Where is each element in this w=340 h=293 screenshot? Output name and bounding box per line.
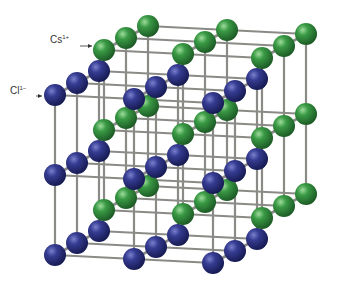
lattice-rod — [126, 38, 205, 42]
lattice-rod — [99, 71, 178, 75]
lattice-rod — [99, 151, 178, 155]
cs-ion-sphere — [194, 31, 216, 53]
lattice-rod — [55, 175, 134, 179]
lattice-rod — [77, 243, 156, 247]
cs-ion-sphere — [251, 207, 273, 229]
lattice-rod — [178, 235, 257, 239]
cl-ion-sphere — [44, 164, 66, 186]
cl-ion-sphere — [167, 144, 189, 166]
lattice-rod — [156, 247, 235, 251]
cl-ion-sphere — [44, 244, 66, 266]
lattice-rod — [77, 83, 156, 87]
lattice-rod — [99, 231, 178, 235]
cl-ion-sphere — [145, 76, 167, 98]
cscl-lattice-diagram: Cs1+ Cl1− — [0, 0, 340, 293]
cl-ion-sphere — [123, 248, 145, 270]
lattice-rod — [156, 87, 235, 91]
cl-ion-sphere — [66, 72, 88, 94]
cs-ion-label: Cs1+ — [50, 35, 69, 45]
lattice-rod — [126, 198, 205, 202]
cs-ion-sphere — [93, 119, 115, 141]
cs-symbol: Cs — [50, 34, 62, 45]
lattice-rod — [104, 130, 183, 134]
cl-ion-sphere — [145, 156, 167, 178]
cl-ion-sphere — [66, 232, 88, 254]
lattice-rod — [126, 118, 205, 122]
cl-ion-sphere — [88, 220, 110, 242]
lattice-rod — [134, 259, 213, 263]
lattice-rod — [205, 202, 284, 206]
cl-ion-sphere — [246, 68, 268, 90]
cs-ion-sphere — [273, 35, 295, 57]
cl-ion-sphere — [202, 252, 224, 274]
cs-ion-sphere — [115, 187, 137, 209]
cs-ion-sphere — [251, 127, 273, 149]
cl-ion-sphere — [224, 80, 246, 102]
cs-ion-sphere — [295, 103, 317, 125]
cl-ion-sphere — [167, 64, 189, 86]
lattice-rod — [55, 95, 134, 99]
cs-ion-sphere — [194, 111, 216, 133]
cs-ion-sphere — [137, 15, 159, 37]
cl-ion-sphere — [66, 152, 88, 174]
cs-charge: 1+ — [62, 34, 69, 40]
cs-arrowhead-icon — [88, 44, 92, 48]
lattice-rod — [55, 255, 134, 259]
cs-ion-sphere — [273, 115, 295, 137]
cs-ion-sphere — [273, 195, 295, 217]
cl-charge: 1− — [19, 85, 26, 91]
cs-ion-sphere — [172, 123, 194, 145]
cs-ion-sphere — [172, 43, 194, 65]
cs-ion-sphere — [295, 23, 317, 45]
cl-ion-sphere — [202, 172, 224, 194]
lattice-rod — [227, 110, 306, 114]
cl-ion-sphere — [123, 168, 145, 190]
lattice-rod — [183, 214, 262, 218]
cs-ion-sphere — [115, 27, 137, 49]
cl-ion-sphere — [224, 240, 246, 262]
cl-arrowhead-icon — [38, 94, 42, 98]
lattice-rod — [205, 122, 284, 126]
lattice-rod — [183, 134, 262, 138]
cs-ion-sphere — [194, 191, 216, 213]
lattice-rod — [156, 167, 235, 171]
cl-ion-sphere — [202, 92, 224, 114]
cl-ion-label: Cl1− — [10, 86, 26, 96]
lattice-rod — [178, 155, 257, 159]
cl-ion-sphere — [145, 236, 167, 258]
lattice-rod — [183, 54, 262, 58]
cs-ion-sphere — [93, 39, 115, 61]
cs-ion-sphere — [115, 107, 137, 129]
cs-ion-sphere — [172, 203, 194, 225]
lattice-rod — [227, 190, 306, 194]
cs-ion-sphere — [93, 199, 115, 221]
cl-ion-sphere — [123, 88, 145, 110]
cs-ion-sphere — [216, 19, 238, 41]
cl-ion-sphere — [246, 228, 268, 250]
lattice-rod — [178, 75, 257, 79]
cl-ion-sphere — [88, 60, 110, 82]
lattice-rod — [77, 163, 156, 167]
cl-ion-sphere — [167, 224, 189, 246]
lattice-rod — [104, 210, 183, 214]
cl-ion-sphere — [224, 160, 246, 182]
lattice-rod — [227, 30, 306, 34]
cl-ion-sphere — [88, 140, 110, 162]
lattice-rod — [205, 42, 284, 46]
lattice-rod — [148, 26, 227, 30]
lattice-rod — [104, 50, 183, 54]
cl-ion-sphere — [44, 84, 66, 106]
cs-ion-sphere — [251, 47, 273, 69]
lattice-spheres — [44, 15, 317, 274]
cl-ion-sphere — [246, 148, 268, 170]
cs-ion-sphere — [295, 183, 317, 205]
